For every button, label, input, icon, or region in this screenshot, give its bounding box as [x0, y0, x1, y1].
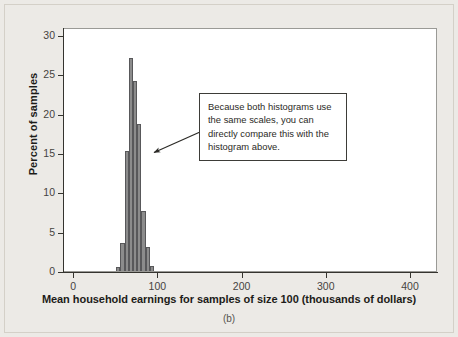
y-tick-mark [58, 233, 63, 234]
y-tick-mark [58, 154, 63, 155]
y-axis-line [63, 28, 64, 273]
x-tick-mark [326, 273, 327, 278]
x-axis-title: Mean household earnings for samples of s… [0, 293, 458, 305]
panel-caption: (b) [0, 313, 458, 324]
histogram-bar [150, 266, 154, 272]
x-tick-mark [242, 273, 243, 278]
x-tick-label: 400 [390, 280, 430, 292]
y-tick-mark [58, 115, 63, 116]
y-tick-mark [58, 75, 63, 76]
y-tick-label: 30 [22, 29, 55, 41]
x-tick-label: 0 [53, 280, 93, 292]
x-tick-mark [73, 273, 74, 278]
x-tick-label: 100 [137, 280, 177, 292]
x-tick-mark [410, 273, 411, 278]
x-tick-label: 200 [222, 280, 262, 292]
y-tick-mark [58, 193, 63, 194]
callout-textbox: Because both histograms use the same sca… [199, 93, 347, 161]
y-tick-mark [58, 36, 63, 37]
y-tick-mark [58, 272, 63, 273]
x-axis-line [63, 272, 438, 273]
y-tick-label: 0 [22, 265, 55, 277]
callout-arrow-icon [145, 120, 207, 162]
x-tick-mark [157, 273, 158, 278]
y-axis-title: Percent of samples [27, 44, 39, 204]
x-tick-label: 300 [306, 280, 346, 292]
figure-panel-b: 051015202530 0100200300400 Percent of sa… [0, 0, 458, 337]
y-tick-label: 5 [22, 226, 55, 238]
